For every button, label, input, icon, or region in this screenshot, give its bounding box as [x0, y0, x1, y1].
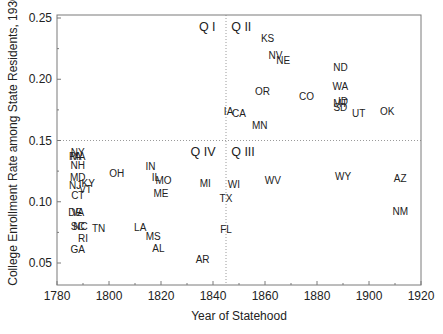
- state-point-label: WI: [228, 179, 240, 190]
- state-point-label: OR: [255, 86, 270, 97]
- state-point-label: MO: [156, 175, 172, 186]
- quadrant-label: Q I: [199, 20, 216, 34]
- state-point-label: CT: [71, 190, 84, 201]
- quadrant-label: Q IV: [191, 145, 217, 159]
- state-point-label: GA: [71, 244, 86, 255]
- x-tick-label: 1820: [148, 289, 175, 303]
- x-axis: 17801800182018401860188019001920: [44, 281, 435, 303]
- state-point-label: TX: [220, 193, 233, 204]
- state-point-label: ME: [154, 188, 169, 199]
- x-axis-title: Year of Statehood: [191, 309, 287, 323]
- quadrant-labels: Q IQ IIQ IVQ III: [191, 20, 255, 159]
- state-point-label: SC: [71, 221, 85, 232]
- state-point-label: MN: [252, 120, 268, 131]
- state-point-label: OK: [380, 106, 395, 117]
- x-tick-label: 1920: [408, 289, 435, 303]
- x-tick-label: 1780: [44, 289, 71, 303]
- quadrant-label: Q III: [231, 145, 255, 159]
- y-axis: 0.050.100.150.200.25: [29, 11, 61, 270]
- state-point-label: WA: [333, 81, 349, 92]
- state-point-label: KS: [261, 33, 275, 44]
- x-tick-label: 1900: [356, 289, 383, 303]
- state-point-label: CO: [299, 91, 314, 102]
- state-point-label: RI: [78, 233, 88, 244]
- x-tick-label: 1860: [252, 289, 279, 303]
- state-point-label: AL: [152, 243, 165, 254]
- state-point-label: MS: [146, 231, 161, 242]
- state-point-label: NE: [276, 55, 290, 66]
- quadrant-label: Q II: [231, 20, 251, 34]
- x-tick-label: 1800: [96, 289, 123, 303]
- y-tick-label: 0.05: [29, 256, 53, 270]
- y-tick-label: 0.20: [29, 72, 53, 86]
- y-axis-title: College Enrollment Rate among State Resi…: [6, 0, 20, 286]
- y-tick-label: 0.25: [29, 11, 53, 25]
- state-point-label: WY: [335, 171, 351, 182]
- state-point-label: NM: [392, 206, 408, 217]
- x-tick-label: 1840: [200, 289, 227, 303]
- state-point-label: WV: [265, 175, 281, 186]
- state-point-label: IN: [146, 161, 156, 172]
- state-point-label: UT: [352, 108, 365, 119]
- y-tick-label: 0.15: [29, 134, 53, 148]
- y-tick-label: 0.10: [29, 195, 53, 209]
- state-point-label: AZ: [394, 173, 407, 184]
- scatter-chart: 17801800182018401860188019001920 0.050.1…: [0, 0, 443, 334]
- state-point-label: OH: [109, 168, 124, 179]
- state-point-label: SD: [333, 102, 347, 113]
- state-point-label: CA: [232, 108, 246, 119]
- state-point-label: ND: [333, 62, 347, 73]
- state-point-label: NH: [71, 160, 85, 171]
- state-point-label: FL: [220, 224, 232, 235]
- x-tick-label: 1880: [304, 289, 331, 303]
- state-point-label: TN: [92, 223, 105, 234]
- state-point-label: VA: [71, 207, 84, 218]
- state-point-label: MI: [200, 178, 211, 189]
- state-point-label: AR: [196, 254, 210, 265]
